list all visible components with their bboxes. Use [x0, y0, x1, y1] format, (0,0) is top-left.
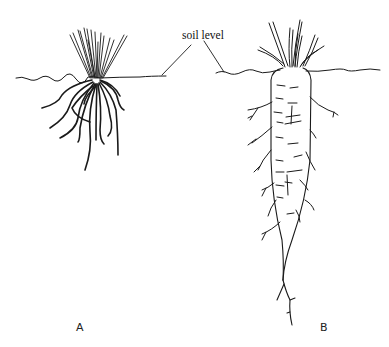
root-systems-diagram: soil level A B: [0, 0, 389, 347]
figure-label-b: B: [320, 321, 328, 334]
figure-b-shoots: [258, 20, 324, 67]
figure-b-lateral-roots: [248, 97, 338, 240]
soil-level-leaders: [162, 41, 224, 75]
figure-label-a: A: [76, 321, 84, 334]
figure-a-roots: [42, 80, 124, 170]
soil-line-b: [216, 69, 380, 74]
figure-b-texture: [274, 85, 302, 214]
soil-level-label: soil level: [182, 29, 224, 41]
diagram-drawing: [0, 0, 389, 347]
figure-b-taproot: [271, 68, 311, 325]
figure-a-shoots: [70, 28, 127, 78]
